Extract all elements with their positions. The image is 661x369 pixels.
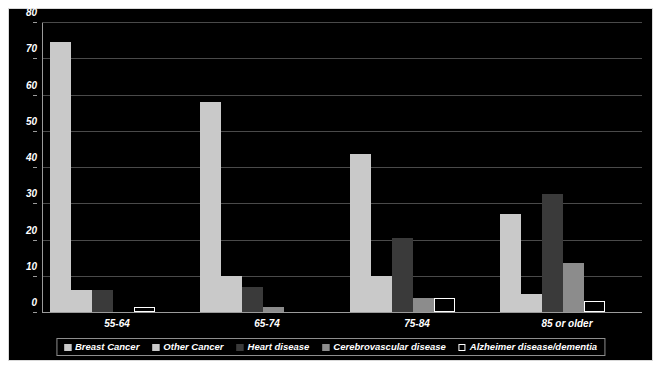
legend-swatch-icon: [459, 344, 466, 351]
legend-swatch-icon: [322, 344, 329, 351]
bar: [392, 238, 413, 312]
legend-label: Alzheimer disease/dementia: [470, 342, 597, 352]
bar: [371, 276, 392, 312]
bar-group: [42, 22, 192, 312]
y-axis-tick-label: 60: [26, 81, 37, 91]
bar: [134, 307, 155, 312]
x-axis-label: 65-74: [192, 318, 342, 329]
bar: [92, 290, 113, 312]
chart-frame: 01020304050607080 55-6465-7475-8485 or o…: [8, 8, 653, 361]
legend-item: Alzheimer disease/dementia: [459, 342, 597, 352]
bar: [221, 276, 242, 312]
legend-label: Breast Cancer: [75, 342, 139, 352]
bar-group: [342, 22, 492, 312]
bar: [71, 290, 92, 312]
bar-group: [192, 22, 342, 312]
bar: [500, 214, 521, 312]
bar: [200, 102, 221, 312]
y-axis-tick-label: 40: [26, 153, 37, 163]
y-axis-tick-mark: [33, 167, 37, 168]
y-axis-tick-mark: [33, 312, 37, 313]
bar: [50, 42, 71, 312]
x-axis-label: 55-64: [42, 318, 192, 329]
legend-label: Cerebrovascular disease: [333, 342, 445, 352]
legend-label: Other Cancer: [163, 342, 223, 352]
y-axis-tick-label: 0: [31, 298, 37, 308]
y-axis-tick-label: 30: [26, 189, 37, 199]
y-axis-tick-mark: [33, 203, 37, 204]
y-axis-tick-mark: [33, 240, 37, 241]
x-axis-labels: 55-6465-7475-8485 or older: [42, 316, 642, 334]
y-axis-tick-label: 50: [26, 117, 37, 127]
x-axis-label: 75-84: [342, 318, 492, 329]
bar: [521, 294, 542, 312]
bar: [350, 154, 371, 312]
y-axis-tick-mark: [33, 276, 37, 277]
legend-swatch-icon: [237, 344, 244, 351]
bar-group: [492, 22, 642, 312]
legend-label: Heart disease: [248, 342, 310, 352]
plot-area: [42, 23, 642, 313]
y-axis-tick-mark: [33, 58, 37, 59]
y-axis-tick-label: 80: [26, 8, 37, 18]
legend-swatch-icon: [152, 344, 159, 351]
legend-item: Cerebrovascular disease: [322, 342, 445, 352]
y-axis-tick-label: 10: [26, 262, 37, 272]
bar: [542, 194, 563, 312]
x-axis-label: 85 or older: [492, 318, 642, 329]
legend-item: Other Cancer: [152, 342, 223, 352]
bar: [413, 298, 434, 313]
x-axis-line: [42, 312, 642, 313]
y-axis-tick-mark: [33, 22, 37, 23]
y-axis-ticks: 01020304050607080: [9, 23, 37, 313]
legend-item: Heart disease: [237, 342, 310, 352]
chart-legend: Breast CancerOther CancerHeart diseaseCe…: [56, 338, 605, 356]
bar: [563, 263, 584, 312]
bar: [242, 287, 263, 312]
y-axis-tick-mark: [33, 95, 37, 96]
y-axis-tick-label: 70: [26, 44, 37, 54]
legend-item: Breast Cancer: [64, 342, 139, 352]
bar: [263, 307, 284, 312]
y-axis-tick-label: 20: [26, 226, 37, 236]
bar: [584, 301, 605, 312]
y-axis-tick-mark: [33, 131, 37, 132]
legend-swatch-icon: [64, 344, 71, 351]
bar: [434, 298, 455, 313]
